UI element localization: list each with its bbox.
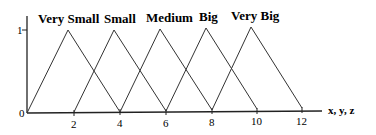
label-big: Big — [199, 9, 218, 24]
label-small: Small — [104, 11, 136, 26]
x-axis — [27, 111, 322, 113]
x-tick-label-4: 4 — [117, 117, 123, 129]
fuzzy-membership-chart: Very Small Small Medium Big Very Big 1 0… — [0, 0, 376, 135]
y-tick-label-0: 0 — [19, 107, 25, 119]
x-tick-label-10: 10 — [251, 115, 263, 127]
series-very-big — [212, 27, 302, 110]
label-very-small: Very Small — [38, 11, 100, 26]
x-tick-label-8: 8 — [209, 116, 215, 128]
series-medium — [120, 29, 212, 112]
y-tick-label-1: 1 — [17, 24, 23, 36]
series-big — [166, 28, 257, 111]
series-very-small — [27, 30, 120, 113]
label-very-big: Very Big — [231, 8, 280, 23]
x-tick-label-12: 12 — [296, 115, 307, 127]
x-axis-label: x, y, z — [328, 104, 354, 116]
x-tick-label-6: 6 — [163, 117, 169, 129]
series-small — [74, 30, 166, 112]
label-medium: Medium — [146, 10, 193, 25]
x-tick-label-2: 2 — [71, 118, 77, 130]
